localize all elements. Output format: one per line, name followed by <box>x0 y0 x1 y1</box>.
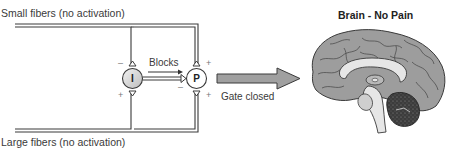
output-arrow <box>217 68 300 89</box>
projection-top-sign: + <box>206 58 211 68</box>
small-fibers-label: Small fibers (no activation) <box>1 7 125 19</box>
synapse-bottom-inhibitory <box>129 91 136 96</box>
blocks-arrow <box>148 70 183 75</box>
synapse-top-projection <box>193 61 200 66</box>
brain-title: Brain - No Pain <box>338 9 413 21</box>
synapse-top-inhibitory <box>129 61 136 66</box>
large-fiber-line <box>15 91 198 132</box>
blocks-label: Blocks <box>149 57 178 68</box>
projection-left-sign: – <box>178 82 183 92</box>
inhibitory-node-label: I <box>123 69 143 89</box>
gate-control-diagram: Small fibers (no activation) Large fiber… <box>0 0 459 153</box>
synapse-bottom-projection <box>193 91 200 96</box>
inhibitory-connection <box>143 77 182 80</box>
gate-closed-label: Gate closed <box>221 91 274 102</box>
inhibitory-bottom-sign: + <box>118 90 123 100</box>
brain-illustration <box>312 30 445 133</box>
projection-node-label: P <box>187 69 207 89</box>
inhibitory-top-sign: – <box>118 58 123 68</box>
large-fibers-label: Large fibers (no activation) <box>1 136 125 148</box>
projection-bottom-sign: + <box>206 90 211 100</box>
